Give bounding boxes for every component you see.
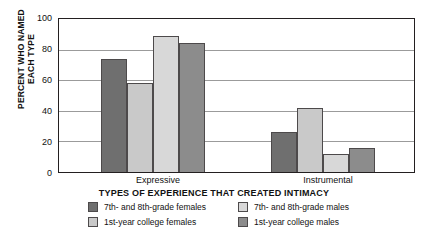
plot-area bbox=[58, 18, 415, 173]
legend-swatch-icon bbox=[88, 217, 98, 227]
category-label-expressive: Expressive bbox=[108, 175, 208, 185]
legend-label: 1st-year college females bbox=[104, 217, 196, 227]
bar bbox=[101, 59, 127, 172]
bar bbox=[349, 148, 375, 172]
y-tick-0: 0 bbox=[26, 169, 52, 178]
y-tick-100: 100 bbox=[26, 14, 52, 23]
bar bbox=[297, 108, 323, 172]
y-tick-20: 20 bbox=[26, 138, 52, 147]
bar bbox=[179, 43, 205, 172]
y-tick-60: 60 bbox=[26, 76, 52, 85]
y-tick-80: 80 bbox=[26, 45, 52, 54]
legend-swatch-icon bbox=[238, 217, 248, 227]
bar-group-instrumental bbox=[271, 19, 375, 172]
legend-swatch-icon bbox=[238, 202, 248, 212]
legend-item-2: 1st-year college females bbox=[88, 217, 238, 227]
bar-chart-figure: PERCENT WHO NAMED EACH TYPE 100 80 60 40… bbox=[0, 0, 428, 246]
bar-group-expressive bbox=[101, 19, 205, 172]
y-axis-title-text: PERCENT WHO NAMED EACH TYPE bbox=[16, 9, 37, 109]
y-tick-40: 40 bbox=[26, 107, 52, 116]
category-label-instrumental: Instrumental bbox=[278, 175, 378, 185]
bar bbox=[127, 83, 153, 172]
bars-container bbox=[59, 19, 414, 172]
legend-item-1: 7th- and 8th-grade males bbox=[238, 202, 388, 212]
legend-item-3: 1st-year college males bbox=[238, 217, 388, 227]
legend-label: 7th- and 8th-grade males bbox=[254, 202, 349, 212]
x-axis-title: TYPES OF EXPERIENCE THAT CREATED INTIMAC… bbox=[0, 188, 428, 198]
legend-label: 7th- and 8th-grade females bbox=[104, 202, 206, 212]
legend-item-0: 7th- and 8th-grade females bbox=[88, 202, 238, 212]
bar bbox=[271, 132, 297, 172]
bar bbox=[153, 36, 179, 172]
legend-swatch-icon bbox=[88, 202, 98, 212]
chart-legend: 7th- and 8th-grade females 7th- and 8th-… bbox=[88, 202, 388, 227]
legend-label: 1st-year college males bbox=[254, 217, 339, 227]
bar bbox=[323, 154, 349, 172]
